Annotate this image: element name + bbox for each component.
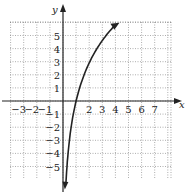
graph: −3−2−123456754321−1−2−3−4−5 x y [0, 0, 188, 192]
y-tick-label: −2 [45, 122, 60, 133]
x-tick-label: 5 [125, 104, 131, 115]
y-tick-label: −1 [45, 109, 60, 120]
y-tick-label: 2 [54, 70, 60, 81]
y-tick-label: −3 [45, 135, 60, 146]
y-tick-label: 1 [54, 83, 60, 94]
y-tick-label: 3 [54, 57, 60, 68]
x-tick-label: 4 [112, 104, 118, 115]
x-tick-label: 6 [138, 104, 144, 115]
x-axis-label: x [179, 99, 185, 110]
y-axis-label: y [51, 4, 58, 15]
y-axis-arrow-icon [60, 4, 66, 12]
grid [10, 22, 171, 178]
y-tick-label: 5 [54, 31, 60, 42]
y-tick-label: −4 [45, 148, 60, 159]
y-tick-label: 4 [54, 44, 60, 55]
x-tick-label: 7 [152, 104, 158, 115]
y-tick-label: −5 [45, 162, 60, 173]
x-tick-label: 3 [99, 104, 105, 115]
x-tick-label: 2 [86, 104, 92, 115]
